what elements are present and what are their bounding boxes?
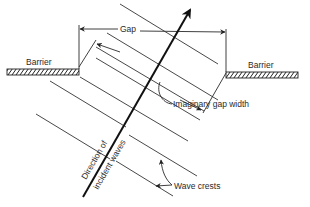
wave-crest	[116, 161, 173, 196]
barrier-right-label: Barrier	[248, 60, 274, 70]
barrier-left-label: Barrier	[26, 57, 52, 67]
wave-crest	[107, 33, 218, 100]
barrier-left	[7, 69, 79, 75]
imaginary-gap-extension-left	[79, 40, 96, 67]
barrier-right	[226, 72, 298, 78]
wave-crests-leader-lower	[156, 185, 172, 186]
wave-crest	[96, 58, 200, 120]
wave-crest	[120, 4, 218, 64]
imaginary-gap-width-label: Imaginary gap width	[173, 99, 249, 109]
gap-dimension-right	[140, 31, 225, 32]
wave-gap-diagram: Barrier Barrier Gap Imaginary gap width …	[0, 0, 310, 207]
wave-crests-label: Wave crests	[174, 181, 220, 191]
wave-crests-leader-upper	[161, 160, 172, 185]
wave-crest	[50, 81, 126, 127]
imaginary-gap-arrow-left	[97, 44, 120, 52]
gap-label: Gap	[120, 24, 136, 34]
